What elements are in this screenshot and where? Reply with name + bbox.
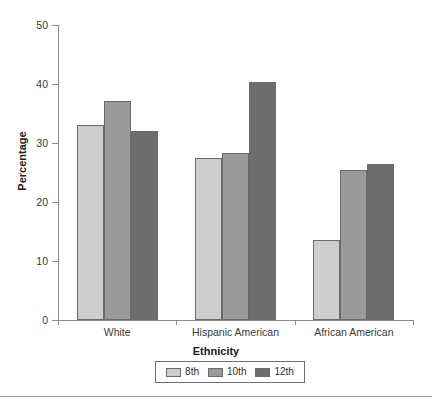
- bar: [222, 153, 249, 320]
- legend-label: 10th: [227, 367, 246, 377]
- bar: [104, 101, 131, 320]
- y-axis-tick-label: 50: [12, 25, 48, 26]
- x-axis-tick: [176, 320, 177, 325]
- y-axis-tick-label-text: 20: [36, 196, 48, 208]
- legend-swatch: [255, 368, 270, 377]
- bar: [77, 125, 104, 320]
- y-axis-tick-label: 40: [12, 84, 48, 85]
- x-axis-tick: [413, 320, 414, 325]
- y-axis-tick-label: 20: [12, 202, 48, 203]
- legend-label: 8th: [185, 367, 199, 377]
- bar: [131, 131, 158, 320]
- bar: [249, 82, 276, 320]
- legend-label: 12th: [274, 367, 293, 377]
- x-axis-tick: [295, 320, 296, 325]
- legend-item: 8th: [166, 367, 199, 377]
- y-axis-tick-label-text: 40: [36, 78, 48, 90]
- bar: [195, 158, 222, 320]
- legend-swatch: [166, 368, 181, 377]
- y-axis-tick-label-text: 0: [42, 314, 48, 326]
- bar: [367, 164, 394, 320]
- legend-item: 12th: [255, 367, 293, 377]
- x-axis-category-label: African American: [295, 327, 413, 339]
- y-axis-tick-label-text: 50: [36, 19, 48, 31]
- y-axis-tick-label-text: 10: [36, 255, 48, 267]
- y-axis-tick-label: 0: [12, 320, 48, 321]
- bar: [313, 240, 340, 320]
- bar-chart-figure: 01020304050 WhiteHispanic AmericanAfrica…: [0, 0, 432, 403]
- y-axis-tick-label-text: 30: [36, 137, 48, 149]
- legend: 8th10th12th: [155, 361, 305, 383]
- x-axis-category-label: White: [58, 327, 176, 339]
- x-axis-category-label: Hispanic American: [176, 327, 294, 339]
- bars-layer: [58, 25, 413, 320]
- legend-swatch: [208, 368, 223, 377]
- y-axis-tick-label: 10: [12, 261, 48, 262]
- legend-item: 10th: [208, 367, 246, 377]
- bottom-divider: [0, 396, 432, 397]
- bar: [340, 170, 367, 320]
- y-axis-title: Percentage: [16, 121, 28, 201]
- x-axis-line: [58, 320, 414, 321]
- x-axis-title: Ethnicity: [0, 345, 432, 357]
- x-axis-tick: [58, 320, 59, 325]
